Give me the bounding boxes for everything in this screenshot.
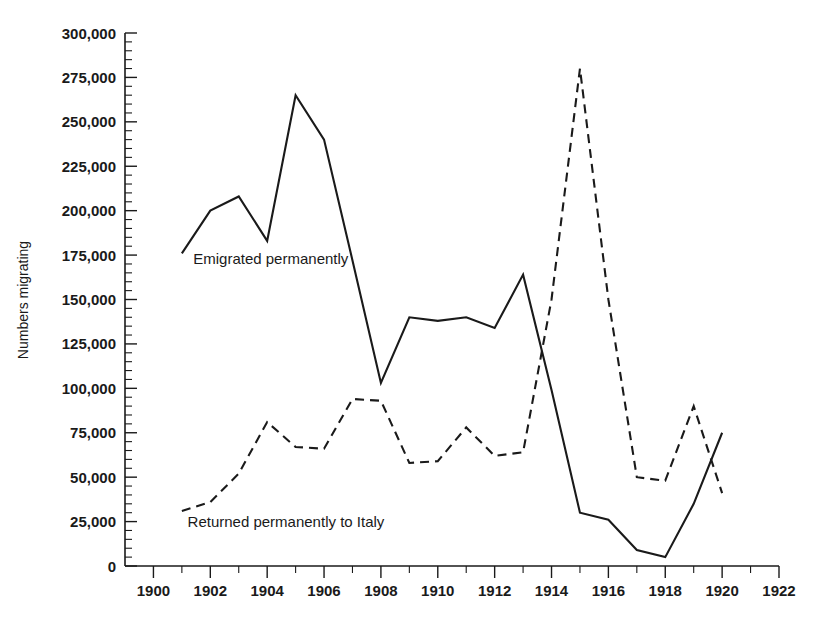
y-tick-label-300000: 300,000	[62, 25, 116, 42]
y-axis-group: 025,00050,00075,000100,000125,000150,000…	[62, 25, 137, 575]
x-tick-label-1902: 1902	[194, 582, 227, 599]
x-tick-label-1908: 1908	[364, 582, 397, 599]
y-axis-tick-labels: 025,00050,00075,000100,000125,000150,000…	[62, 25, 116, 575]
series-label-returned: Returned permanently to Italy	[188, 513, 385, 530]
series-line-emigrated	[182, 95, 722, 557]
migration-line-chart: 025,00050,00075,000100,000125,000150,000…	[0, 0, 817, 622]
y-tick-label-175000: 175,000	[62, 247, 116, 264]
y-tick-label-50000: 50,000	[70, 469, 116, 486]
y-tick-label-200000: 200,000	[62, 202, 116, 219]
series-lines	[182, 69, 722, 558]
y-tick-label-275000: 275,000	[62, 69, 116, 86]
x-tick-label-1914: 1914	[535, 582, 569, 599]
x-tick-label-1910: 1910	[421, 582, 454, 599]
x-tick-label-1920: 1920	[705, 582, 738, 599]
x-axis-tick-labels: 1900190219041906190819101912191419161918…	[137, 582, 796, 599]
series-annotations: Emigrated permanentlyReturned permanentl…	[188, 250, 385, 530]
y-tick-label-225000: 225,000	[62, 158, 116, 175]
x-tick-label-1904: 1904	[250, 582, 284, 599]
x-tick-label-1900: 1900	[137, 582, 170, 599]
x-axis-group: 1900190219041906190819101912191419161918…	[125, 566, 796, 599]
y-tick-label-250000: 250,000	[62, 113, 116, 130]
series-label-emigrated: Emigrated permanently	[193, 250, 349, 267]
series-line-returned	[182, 69, 722, 511]
y-axis-title: Numbers migrating	[15, 241, 31, 359]
y-tick-label-150000: 150,000	[62, 291, 116, 308]
x-tick-label-1922: 1922	[762, 582, 795, 599]
x-tick-label-1906: 1906	[307, 582, 340, 599]
y-tick-label-100000: 100,000	[62, 380, 116, 397]
y-tick-label-125000: 125,000	[62, 335, 116, 352]
y-tick-label-75000: 75,000	[70, 424, 116, 441]
chart-canvas: 025,00050,00075,000100,000125,000150,000…	[0, 0, 817, 622]
y-tick-label-25000: 25,000	[70, 513, 116, 530]
x-tick-label-1916: 1916	[592, 582, 625, 599]
x-tick-label-1918: 1918	[649, 582, 682, 599]
x-tick-label-1912: 1912	[478, 582, 511, 599]
y-tick-label-0: 0	[108, 558, 116, 575]
